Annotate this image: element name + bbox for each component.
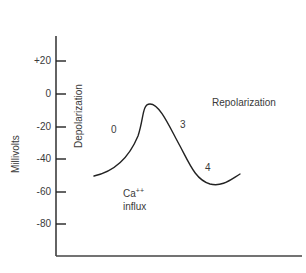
tick-label-minus80: -80 <box>21 219 51 229</box>
tick-label-minus20: -20 <box>21 122 51 132</box>
tick-label-plus20: +20 <box>21 56 51 66</box>
depolarization-label: Depolarization <box>74 84 84 148</box>
influx-label: influx <box>123 202 146 212</box>
ca-influx-label: Ca++ <box>123 187 144 199</box>
phase-0-label: 0 <box>111 125 117 135</box>
y-axis-label: Millivolts <box>11 135 21 173</box>
tick-label-minus40: -40 <box>21 154 51 164</box>
repolarization-label: Repolarization <box>212 98 276 108</box>
ca-text: Ca <box>123 188 136 199</box>
tick-label-0: 0 <box>21 89 51 99</box>
y-axis-ticks <box>56 61 66 224</box>
phase-4-label: 4 <box>205 163 211 173</box>
tick-label-minus60: -60 <box>21 187 51 197</box>
action-potential-curve <box>94 104 240 185</box>
action-potential-diagram <box>0 0 306 273</box>
phase-3-label: 3 <box>180 120 186 130</box>
ca-superscript: ++ <box>136 187 144 194</box>
